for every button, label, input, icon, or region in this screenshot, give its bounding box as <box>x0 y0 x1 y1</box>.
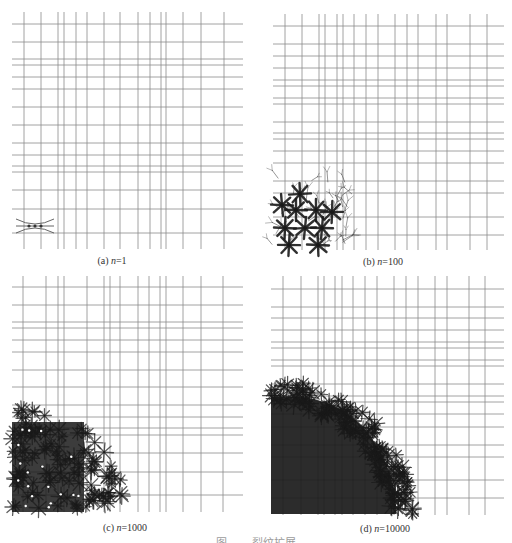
crack-propagation-figure <box>0 0 512 543</box>
caption-prefix: (a) <box>97 255 111 266</box>
caption-value: =1000 <box>121 522 147 533</box>
caption-prefix: (c) <box>103 522 117 533</box>
grid-lines <box>273 14 504 250</box>
panel-c-n1000 <box>4 276 243 518</box>
grid-lines <box>12 12 243 249</box>
panel-c-caption: (c) n=1000 <box>103 522 147 534</box>
panel-d-n10000 <box>263 276 504 520</box>
crack-cluster <box>263 376 422 520</box>
panel-d-caption: (d) n=10000 <box>360 523 410 535</box>
panel-b-n100 <box>263 14 504 256</box>
panel-a-n1 <box>12 12 243 249</box>
caption-value: =10000 <box>379 523 410 534</box>
crack-cluster <box>16 219 54 233</box>
crack-cluster <box>263 165 361 256</box>
figure-caption-clipped: 图 裂纹扩展 <box>216 536 296 543</box>
caption-prefix: (b) <box>363 256 377 267</box>
panel-b-caption: (b) n=100 <box>363 256 403 268</box>
caption-value: =1 <box>116 255 127 266</box>
panel-a-caption: (a) n=1 <box>97 255 126 267</box>
caption-value: =100 <box>382 256 403 267</box>
crack-cluster <box>4 401 130 518</box>
caption-prefix: (d) <box>360 523 374 534</box>
